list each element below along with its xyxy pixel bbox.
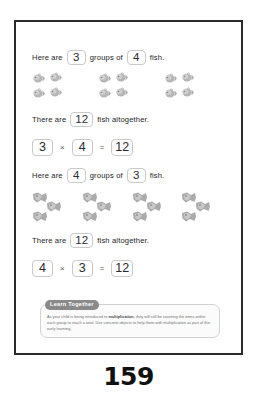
fish-large-icon bbox=[195, 200, 211, 213]
prompt-trail-text: fish. bbox=[150, 172, 165, 180]
equation-result-box[interactable]: 12 bbox=[111, 139, 133, 156]
fish-group bbox=[32, 189, 82, 229]
fish-small-icon bbox=[164, 73, 177, 84]
fish-small-icon bbox=[98, 73, 111, 84]
fish-group bbox=[32, 72, 98, 108]
fish-large-icon bbox=[146, 200, 162, 213]
equals-operator: = bbox=[100, 144, 105, 152]
equals-operator: = bbox=[100, 265, 105, 273]
fish-group-row bbox=[32, 72, 231, 108]
equation-left-box[interactable]: 3 bbox=[32, 139, 53, 156]
total-count-box[interactable]: 12 bbox=[70, 112, 93, 127]
total-count-box[interactable]: 12 bbox=[70, 233, 93, 248]
groups-count-box[interactable]: 3 bbox=[67, 50, 86, 65]
equation-result-box[interactable]: 12 bbox=[111, 260, 133, 277]
groups-count-box[interactable]: 4 bbox=[67, 168, 86, 183]
equation-left-box[interactable]: 4 bbox=[32, 260, 53, 277]
fish-large-icon bbox=[32, 210, 48, 223]
fish-large-icon bbox=[46, 200, 62, 213]
section-1-total-sentence: There are 12 fish altogether. bbox=[32, 112, 231, 127]
section-2-equation: 4 × 3 = 12 bbox=[32, 260, 231, 277]
section-1-prompt: Here are 3 groups of 4 fish. bbox=[32, 50, 231, 65]
prompt-trail-text: fish. bbox=[150, 54, 165, 62]
fish-small-icon bbox=[164, 88, 177, 99]
fish-group bbox=[164, 72, 230, 108]
section-2-total-sentence: There are 12 fish altogether. bbox=[32, 233, 231, 248]
learn-together-badge: Learn Together bbox=[45, 300, 99, 310]
fish-small-icon bbox=[181, 72, 194, 83]
worksheet-page-frame: Here are 3 groups of 4 fish. bbox=[14, 20, 243, 355]
worksheet-content: Here are 3 groups of 4 fish. bbox=[32, 50, 231, 277]
fish-small-icon bbox=[49, 87, 62, 98]
fish-group bbox=[132, 189, 182, 229]
fish-group bbox=[82, 189, 132, 229]
fish-large-icon bbox=[82, 210, 98, 223]
multiply-operator: × bbox=[60, 265, 65, 273]
prompt-middle-text: groups of bbox=[90, 172, 123, 180]
prompt-lead-text: Here are bbox=[32, 172, 63, 180]
learn-together-box: Learn Together As your child is being in… bbox=[40, 304, 220, 338]
section-1-equation: 3 × 4 = 12 bbox=[32, 139, 231, 156]
fish-small-icon bbox=[181, 87, 194, 98]
prompt-lead-text: Here are bbox=[32, 54, 63, 62]
fish-small-icon bbox=[32, 73, 45, 84]
learn-body-before: As your child is being introduced to bbox=[47, 314, 108, 319]
total-trail-text: fish altogether. bbox=[97, 237, 149, 245]
total-lead-text: There are bbox=[32, 116, 66, 124]
per-group-count-box[interactable]: 3 bbox=[127, 168, 146, 183]
fish-large-icon bbox=[132, 210, 148, 223]
section-1: Here are 3 groups of 4 fish. bbox=[32, 50, 231, 156]
page-number: 159 bbox=[0, 362, 257, 391]
total-trail-text: fish altogether. bbox=[97, 116, 149, 124]
fish-large-icon bbox=[181, 210, 197, 223]
learn-together-body: As your child is being introduced to mul… bbox=[47, 314, 213, 332]
section-2-fish-area bbox=[32, 189, 231, 229]
equation-right-box[interactable]: 3 bbox=[72, 260, 93, 277]
prompt-middle-text: groups of bbox=[90, 54, 123, 62]
section-2-prompt: Here are 4 groups of 3 fish. bbox=[32, 168, 231, 183]
fish-small-icon bbox=[115, 87, 128, 98]
fish-small-icon bbox=[98, 88, 111, 99]
fish-group bbox=[98, 72, 164, 108]
fish-small-icon bbox=[49, 72, 62, 83]
multiply-operator: × bbox=[60, 144, 65, 152]
per-group-count-box[interactable]: 4 bbox=[127, 50, 146, 65]
fish-small-icon bbox=[32, 88, 45, 99]
total-lead-text: There are bbox=[32, 237, 66, 245]
fish-large-icon bbox=[96, 200, 112, 213]
fish-group-row bbox=[32, 189, 231, 229]
fish-group bbox=[181, 189, 231, 229]
section-1-fish-area bbox=[32, 72, 231, 108]
equation-right-box[interactable]: 4 bbox=[72, 139, 93, 156]
learn-body-keyword: multiplication bbox=[108, 314, 133, 319]
fish-small-icon bbox=[115, 72, 128, 83]
section-2: Here are 4 groups of 3 fish. bbox=[32, 168, 231, 277]
